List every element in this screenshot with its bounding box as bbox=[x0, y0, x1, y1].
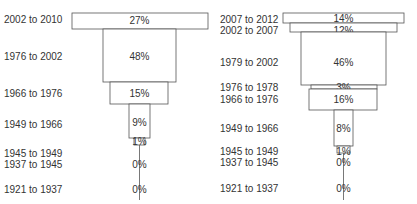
category-label: 1937 to 1945 bbox=[4, 159, 63, 170]
right-funnel-chart: 2007 to 201214%2002 to 200712%1979 to 20… bbox=[220, 13, 404, 200]
category-label: 1979 to 2002 bbox=[220, 57, 279, 68]
data-label: 1% bbox=[132, 136, 147, 147]
category-label: 1966 to 1976 bbox=[4, 88, 63, 99]
category-label: 1921 to 1937 bbox=[220, 183, 279, 194]
category-label: 2002 to 2010 bbox=[4, 14, 63, 25]
category-label: 1976 to 2002 bbox=[4, 51, 63, 62]
category-label: 1945 to 1949 bbox=[220, 146, 279, 157]
category-label: 1921 to 1937 bbox=[4, 184, 63, 195]
category-label: 1949 to 1966 bbox=[4, 119, 63, 130]
data-label: 0% bbox=[132, 184, 147, 195]
data-label: 46% bbox=[333, 57, 353, 68]
category-label: 1976 to 1978 bbox=[220, 82, 279, 93]
data-label: 27% bbox=[129, 15, 149, 26]
category-label: 2002 to 2007 bbox=[220, 25, 279, 36]
category-label: 1945 to 1949 bbox=[4, 148, 63, 159]
data-label: 48% bbox=[129, 51, 149, 62]
data-label: 9% bbox=[132, 117, 147, 128]
data-label: 15% bbox=[129, 88, 149, 99]
data-label: 1% bbox=[336, 146, 351, 157]
category-label: 1949 to 1966 bbox=[220, 123, 279, 134]
data-label: 16% bbox=[333, 94, 353, 105]
category-label: 1937 to 1945 bbox=[220, 157, 279, 168]
left-funnel-chart: 2002 to 201027%1976 to 200248%1966 to 19… bbox=[4, 13, 208, 200]
category-label: 2007 to 2012 bbox=[220, 14, 279, 25]
funnel-charts: 2002 to 201027%1976 to 200248%1966 to 19… bbox=[0, 0, 417, 204]
data-label: 0% bbox=[336, 157, 351, 168]
category-label: 1966 to 1976 bbox=[220, 94, 279, 105]
data-label: 0% bbox=[336, 183, 351, 194]
data-label: 14% bbox=[333, 13, 353, 24]
data-label: 0% bbox=[132, 159, 147, 170]
data-label: 8% bbox=[336, 123, 351, 134]
